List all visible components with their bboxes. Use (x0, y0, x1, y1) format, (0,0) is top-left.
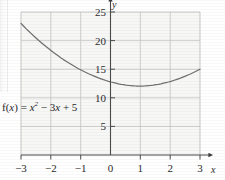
y-tick-label-20: 20 (78, 36, 106, 47)
function-annotation: f(x) = x2 − 3x + 5 (2, 101, 77, 114)
y-tick-label-5: 5 (78, 121, 106, 132)
x-tick-label-1: 1 (128, 163, 152, 174)
y-tick-label-10: 10 (78, 93, 106, 104)
x-tick-label-3: 3 (188, 163, 212, 174)
term3-constant: + 5 (60, 101, 77, 113)
x-tick-label-neg2: −2 (39, 163, 63, 174)
function-equals: = (18, 101, 30, 113)
x-axis-label: x (211, 165, 215, 175)
figure-root: 25 20 15 10 5 −3 −2 −1 0 1 2 3 x y f(x) … (0, 0, 225, 180)
y-axis-label: y (112, 0, 116, 10)
x-tick-label-2: 2 (158, 163, 182, 174)
x-tick-label-0: 0 (99, 163, 123, 174)
x-tick-label-neg3: −3 (9, 163, 33, 174)
y-tick-label-15: 15 (78, 64, 106, 75)
y-tick-label-25: 25 (78, 7, 106, 18)
axes (0, 0, 225, 180)
x-tick-label-neg1: −1 (69, 163, 93, 174)
term2-coefficient: − 3 (38, 101, 55, 113)
